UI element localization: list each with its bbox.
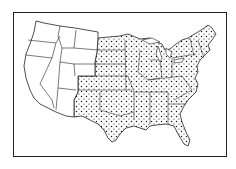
us-map-svg [0,0,236,169]
us-map-figure [0,0,236,169]
